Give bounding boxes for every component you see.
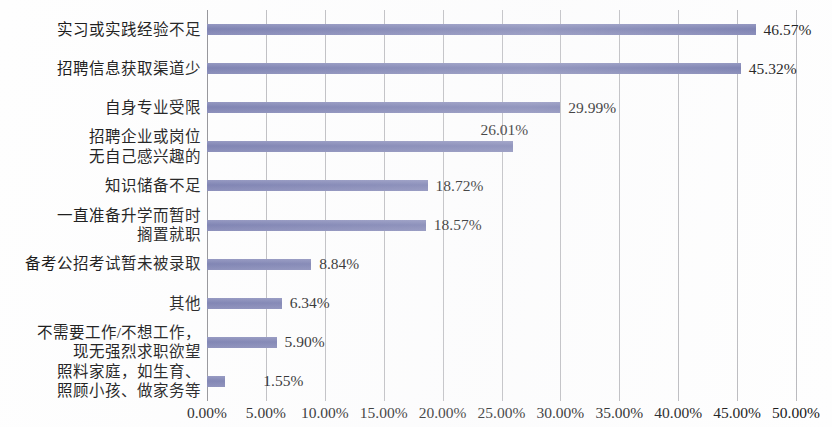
bar-chart: 实习或实践经验不足招聘信息获取渠道少自身专业受限招聘企业或岗位无自己感兴趣的知识… — [0, 0, 832, 427]
bar — [207, 259, 311, 270]
category-label-line: 现无强烈求职欲望 — [37, 342, 201, 362]
bar — [207, 298, 282, 309]
bar — [207, 337, 277, 348]
category-label: 其他 — [169, 294, 201, 314]
category-label: 备考公招考试暂未被录取 — [25, 254, 201, 274]
category-label-line: 不需要工作/不想工作， — [37, 323, 201, 343]
category-label-line: 照顾小孩、做家务等 — [57, 381, 201, 401]
category-label: 不需要工作/不想工作，现无强烈求职欲望 — [37, 323, 201, 362]
bar-value-label: 18.72% — [436, 177, 484, 194]
bar — [207, 220, 426, 231]
bar-value-label: 18.57% — [434, 216, 482, 233]
bar-value-label: 5.90% — [285, 333, 325, 350]
category-label: 照料家庭，如生育、照顾小孩、做家务等 — [57, 362, 201, 401]
category-label: 一直准备升学而暂时搁置就职 — [57, 206, 201, 245]
category-label-line: 搁置就职 — [57, 225, 201, 245]
category-label-line: 照料家庭，如生育、 — [57, 362, 201, 382]
bar — [207, 24, 756, 35]
category-label: 招聘企业或岗位无自己感兴趣的 — [89, 127, 201, 166]
category-label-line: 招聘企业或岗位 — [89, 127, 201, 147]
bar-value-label: 1.55% — [263, 372, 303, 389]
x-tick-label: 20.00% — [419, 404, 467, 422]
x-tick-label: 45.00% — [713, 404, 761, 422]
category-label: 招聘信息获取渠道少 — [57, 59, 201, 79]
category-label: 知识储备不足 — [105, 176, 201, 196]
x-tick-label: 25.00% — [478, 404, 526, 422]
bar-value-label: 8.84% — [319, 255, 359, 272]
bar — [207, 63, 741, 74]
category-label-line: 其他 — [169, 294, 201, 314]
category-label-line: 自身专业受限 — [105, 98, 201, 118]
x-tick-label: 10.00% — [301, 404, 349, 422]
bar-value-label: 29.99% — [568, 99, 616, 116]
x-tick-label: 15.00% — [360, 404, 408, 422]
plot-area: 46.57%45.32%29.99%26.01%18.72%18.57%8.84… — [207, 10, 796, 401]
category-label: 实习或实践经验不足 — [57, 20, 201, 40]
bar-value-label: 26.01% — [480, 121, 528, 138]
category-label-line: 知识储备不足 — [105, 176, 201, 196]
x-tick-label: 5.00% — [246, 404, 286, 422]
bar — [207, 376, 225, 387]
bar-value-label: 6.34% — [290, 294, 330, 311]
bar — [207, 102, 560, 113]
category-label-line: 备考公招考试暂未被录取 — [25, 254, 201, 274]
category-label: 自身专业受限 — [105, 98, 201, 118]
category-label-line: 一直准备升学而暂时 — [57, 206, 201, 226]
x-tick-label: 40.00% — [654, 404, 702, 422]
x-tick-label: 0.00% — [187, 404, 227, 422]
category-label-line: 无自己感兴趣的 — [89, 147, 201, 167]
category-label-line: 招聘信息获取渠道少 — [57, 59, 201, 79]
bar-value-label: 45.32% — [749, 60, 797, 77]
x-tick-label: 30.00% — [536, 404, 584, 422]
x-tick-label: 50.00% — [772, 404, 820, 422]
bar-value-label: 46.57% — [764, 21, 812, 38]
bar — [207, 141, 513, 152]
x-axis-tick-labels: 0.00%5.00%10.00%15.00%20.00%25.00%30.00%… — [0, 404, 832, 426]
x-tick-label: 35.00% — [595, 404, 643, 422]
bar — [207, 180, 428, 191]
category-axis-labels: 实习或实践经验不足招聘信息获取渠道少自身专业受限招聘企业或岗位无自己感兴趣的知识… — [0, 10, 203, 401]
category-label-line: 实习或实践经验不足 — [57, 20, 201, 40]
